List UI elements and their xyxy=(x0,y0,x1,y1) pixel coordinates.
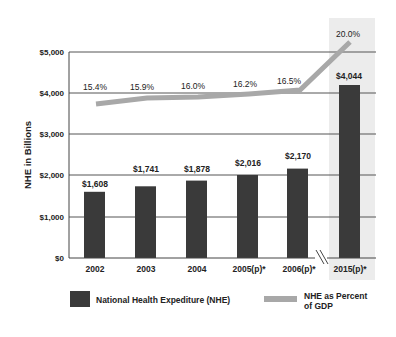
svg-text:$1,000: $1,000 xyxy=(40,213,65,222)
legend-bar-label: National Health Expediture (NHE) xyxy=(96,295,230,305)
svg-text:2003: 2003 xyxy=(137,264,156,274)
svg-text:2002: 2002 xyxy=(86,264,105,274)
svg-text:$1,878: $1,878 xyxy=(184,164,210,174)
chart: $5,000 $4,000 $3,000 $2,000 $1,000 $0 NH… xyxy=(0,0,396,337)
x-axis-labels: 2002 2003 2004 2005(p)* 2006(p)* 2015(p)… xyxy=(86,264,368,274)
gdp-percent-line xyxy=(96,42,350,104)
bar-2015 xyxy=(339,85,360,258)
svg-text:$3,000: $3,000 xyxy=(40,130,65,139)
svg-text:15.4%: 15.4% xyxy=(83,82,108,92)
svg-text:2015(p)*: 2015(p)* xyxy=(333,264,367,274)
bar-2003 xyxy=(135,186,156,258)
bar-value-labels: $1,608 $1,741 $1,878 $2,016 $2,170 $4,04… xyxy=(82,71,362,189)
bar-2005 xyxy=(237,175,258,258)
bar-2002 xyxy=(84,192,105,258)
svg-text:$1,741: $1,741 xyxy=(133,164,159,174)
svg-text:2005(p)*: 2005(p)* xyxy=(232,264,266,274)
svg-text:20.0%: 20.0% xyxy=(336,29,361,39)
svg-text:$2,000: $2,000 xyxy=(40,171,65,180)
legend-bar-swatch xyxy=(70,291,90,307)
svg-text:16.2%: 16.2% xyxy=(233,79,258,89)
legend-line-label-1: NHE as Percent xyxy=(304,291,367,301)
svg-text:2006(p)*: 2006(p)* xyxy=(282,264,316,274)
svg-text:$2,016: $2,016 xyxy=(235,158,261,168)
svg-text:$4,044: $4,044 xyxy=(336,71,362,81)
svg-text:$1,608: $1,608 xyxy=(82,179,108,189)
legend-line-swatch xyxy=(264,296,297,302)
svg-text:16.0%: 16.0% xyxy=(181,81,206,91)
bar-2004 xyxy=(186,181,207,258)
legend-line-label-2: of GDP xyxy=(304,301,367,311)
bars xyxy=(84,85,360,258)
axis-break-icon xyxy=(315,250,328,264)
svg-text:$5,000: $5,000 xyxy=(40,48,65,57)
percent-labels: 15.4% 15.9% 16.0% 16.2% 16.5% 20.0% xyxy=(83,29,361,92)
svg-text:$4,000: $4,000 xyxy=(40,89,65,98)
svg-text:2004: 2004 xyxy=(188,264,207,274)
y-axis-label: NHE in Billions xyxy=(22,121,33,189)
bar-2006 xyxy=(287,169,308,258)
svg-text:$0: $0 xyxy=(55,254,64,263)
svg-text:$2,170: $2,170 xyxy=(285,151,311,161)
y-axis-ticks: $5,000 $4,000 $3,000 $2,000 $1,000 $0 xyxy=(40,48,65,263)
svg-text:16.5%: 16.5% xyxy=(277,76,302,86)
svg-text:15.9%: 15.9% xyxy=(130,82,155,92)
legend-line-label: NHE as Percent of GDP xyxy=(304,291,367,311)
